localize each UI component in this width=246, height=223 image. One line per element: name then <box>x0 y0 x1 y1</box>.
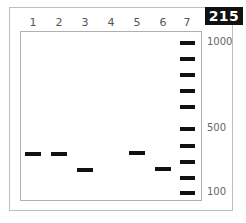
gel-area <box>20 31 202 201</box>
ladder-band <box>180 57 195 61</box>
sample-band-lane-3 <box>77 168 93 172</box>
lane-label-2: 2 <box>52 16 66 29</box>
ladder-band <box>180 73 195 77</box>
figure-number-badge: 215 <box>205 7 243 25</box>
sample-band-lane-2 <box>51 152 67 156</box>
lane-label-4: 4 <box>104 16 118 29</box>
lane-label-5: 5 <box>130 16 144 29</box>
ladder-band <box>180 105 195 109</box>
sample-band-lane-1 <box>25 152 41 156</box>
size-label-1000: 1000 <box>207 36 232 47</box>
ladder-band <box>180 89 195 93</box>
ladder-band <box>180 144 195 148</box>
sample-band-lane-6 <box>155 167 171 171</box>
ladder-band <box>180 41 195 45</box>
ladder-band <box>180 127 195 131</box>
lane-label-6: 6 <box>156 16 170 29</box>
ladder-band <box>180 160 195 164</box>
lane-label-3: 3 <box>78 16 92 29</box>
lane-label-7: 7 <box>180 16 194 29</box>
size-label-500: 500 <box>207 122 226 133</box>
ladder-band <box>180 191 195 195</box>
size-label-100: 100 <box>207 186 226 197</box>
ladder-band <box>180 176 195 180</box>
sample-band-lane-5 <box>129 151 145 155</box>
lane-label-1: 1 <box>26 16 40 29</box>
